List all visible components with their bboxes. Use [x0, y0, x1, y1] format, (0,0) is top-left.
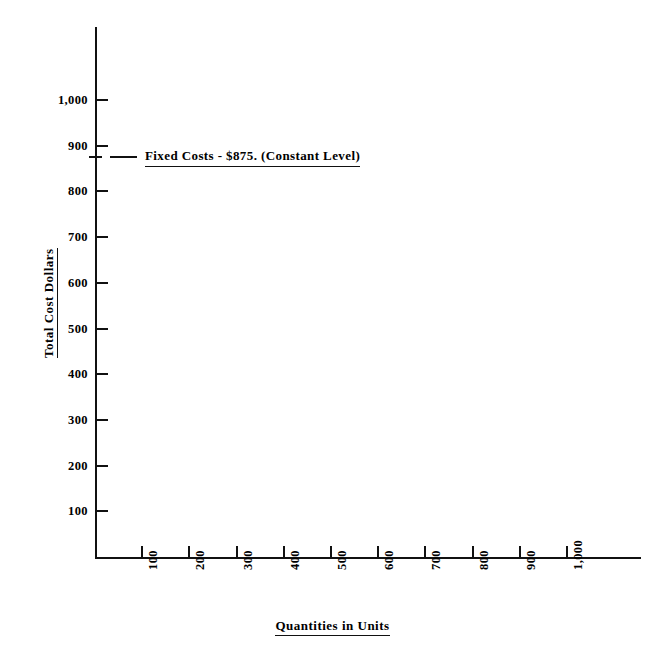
- y-axis-tick: [97, 236, 108, 238]
- fixed-cost-chart: 1002003004005006007008009001,000 1002003…: [0, 0, 665, 655]
- fixed-cost-line-segment-a: [89, 156, 102, 158]
- y-axis-tick-label: 800: [0, 185, 88, 198]
- y-axis-tick-label: 400: [0, 368, 88, 381]
- x-axis-tick-label: 800: [478, 550, 491, 570]
- x-axis-tick: [236, 546, 238, 557]
- y-axis-tick: [97, 282, 108, 284]
- x-axis-tick: [377, 546, 379, 557]
- y-axis-tick-label: 1,000: [0, 94, 88, 107]
- x-axis-tick: [566, 546, 568, 557]
- x-axis-tick: [472, 546, 474, 557]
- x-axis-tick: [283, 546, 285, 557]
- y-axis-tick-label: 900: [0, 140, 88, 153]
- y-axis-tick: [97, 328, 108, 330]
- y-axis-tick: [97, 145, 108, 147]
- x-axis-tick-label: 1,000: [572, 540, 585, 570]
- y-axis-line: [95, 27, 97, 559]
- x-axis-tick: [424, 546, 426, 557]
- x-axis-tick: [330, 546, 332, 557]
- y-axis-tick: [97, 510, 108, 512]
- x-axis-tick: [519, 546, 521, 557]
- x-axis-title: Quantities in Units: [275, 618, 389, 636]
- x-axis-tick-label: 700: [430, 550, 443, 570]
- fixed-cost-annotation: Fixed Costs - $875. (Constant Level): [145, 149, 360, 164]
- y-axis-tick: [97, 465, 108, 467]
- fixed-cost-annotation-text: Fixed Costs - $875. (Constant Level): [145, 148, 360, 167]
- x-axis-tick: [141, 546, 143, 557]
- y-axis-tick: [97, 419, 108, 421]
- x-axis-tick-label: 300: [242, 550, 255, 570]
- x-axis-line: [95, 557, 641, 559]
- y-axis-tick: [97, 190, 108, 192]
- y-axis-tick-label: 200: [0, 460, 88, 473]
- fixed-cost-line-segment-b: [110, 156, 137, 158]
- y-axis-title: Total Cost Dollars: [42, 248, 58, 358]
- y-axis-tick-label: 300: [0, 414, 88, 427]
- y-axis-tick-label: 700: [0, 231, 88, 244]
- x-axis-tick-label: 600: [383, 550, 396, 570]
- x-axis-tick-label: 400: [289, 550, 302, 570]
- y-axis-tick: [97, 373, 108, 375]
- x-axis-tick: [188, 546, 190, 557]
- y-axis-tick: [97, 99, 108, 101]
- x-axis-tick-label: 200: [194, 550, 207, 570]
- x-axis-title-wrapper: Quantities in Units: [0, 618, 665, 634]
- x-axis-tick-label: 500: [336, 550, 349, 570]
- x-axis-tick-label: 900: [525, 550, 538, 570]
- x-axis-tick-label: 100: [147, 550, 160, 570]
- y-axis-tick-label: 100: [0, 505, 88, 518]
